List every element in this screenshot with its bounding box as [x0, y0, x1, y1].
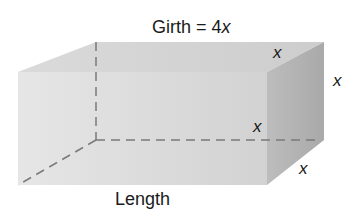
- girth-prefix: Girth = 4: [152, 17, 222, 37]
- length-label: Length: [115, 190, 170, 208]
- front-face: [18, 72, 267, 185]
- edge-label-top-depth: x: [273, 44, 282, 61]
- edge-label-bottom-depth: x: [299, 160, 308, 177]
- girth-variable: x: [222, 17, 231, 37]
- edge-label-hidden-width: x: [253, 118, 262, 135]
- edge-label-right-height: x: [333, 72, 342, 89]
- girth-label: Girth = 4x: [152, 18, 231, 36]
